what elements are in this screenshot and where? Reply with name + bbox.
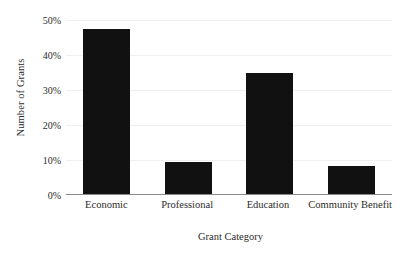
bar-slot-education — [229, 20, 311, 194]
bar-economic[interactable] — [83, 29, 130, 194]
x-tick-label-education: Education — [228, 199, 309, 210]
bar-community-benefit[interactable] — [328, 166, 375, 194]
bar-education[interactable] — [246, 73, 293, 194]
bar-slot-economic — [66, 20, 148, 194]
y-axis-tick-labels: 50% 40% 30% 20% 10% 0% — [0, 20, 66, 195]
x-tick-label-economic: Economic — [66, 199, 147, 210]
y-tick-label-10: 10% — [8, 155, 66, 166]
bar-chart: Number of Grants 50% 40% 30% 20% 10% 0% — [0, 0, 411, 257]
x-axis-line — [66, 194, 392, 195]
x-axis-title: Grant Category — [60, 231, 401, 242]
x-axis-tick-labels: Economic Professional Education Communit… — [66, 199, 392, 210]
y-tick-label-20: 20% — [8, 120, 66, 131]
x-tick-label-community-benefit: Community Benefit — [308, 199, 392, 210]
y-tick-label-40: 40% — [8, 50, 66, 61]
x-tick-label-professional: Professional — [147, 199, 228, 210]
plot-area — [66, 20, 392, 195]
bar-professional[interactable] — [165, 162, 212, 194]
bars-container — [66, 20, 392, 194]
y-tick-label-30: 30% — [8, 85, 66, 96]
bar-slot-professional — [148, 20, 230, 194]
y-tick-label-50: 50% — [8, 15, 66, 26]
bar-slot-community-benefit — [311, 20, 393, 194]
y-tick-label-0: 0% — [8, 190, 66, 201]
